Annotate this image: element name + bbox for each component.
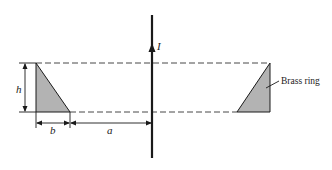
height-label: h	[16, 83, 22, 95]
current-arrow-icon	[149, 43, 156, 52]
brass-ring-label: Brass ring	[281, 76, 320, 86]
left-ring-cross-section	[36, 63, 70, 112]
diagram-canvas: I h b a Brass ring	[0, 0, 332, 170]
current-label: I	[156, 40, 162, 52]
base-label: b	[50, 124, 56, 136]
right-ring-cross-section	[237, 63, 270, 112]
distance-label: a	[107, 124, 113, 136]
